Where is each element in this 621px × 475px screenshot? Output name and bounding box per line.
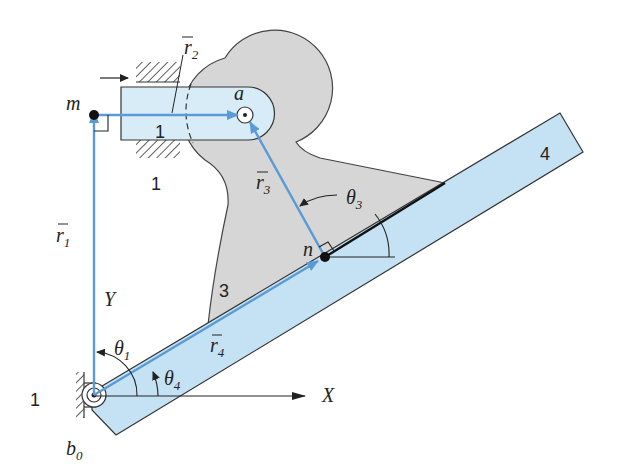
label-link-3: 3	[219, 281, 229, 301]
label-r2: r2	[182, 36, 199, 62]
point-n	[320, 252, 330, 262]
label-b0: b0	[66, 437, 83, 463]
label-m: m	[66, 92, 80, 114]
svg-text:r1: r1	[56, 224, 70, 250]
point-m	[89, 110, 99, 120]
mechanism-diagram: m a n b0 1 1 1 3 4 r1 r2 r3 r4 θ1 θ4 θ3 …	[0, 0, 621, 475]
svg-text:r2: r2	[184, 36, 199, 62]
label-link-1-pivot: 1	[30, 390, 40, 410]
label-y-axis: Y	[104, 288, 117, 310]
label-a: a	[234, 82, 244, 104]
label-theta1: θ1	[114, 337, 130, 363]
label-link-4: 4	[540, 144, 550, 164]
label-n: n	[303, 238, 313, 260]
label-link-2: 1	[155, 122, 165, 142]
label-link-1-guide: 1	[151, 174, 161, 194]
label-r1: r1	[56, 224, 70, 250]
label-x-axis: X	[321, 384, 335, 406]
link-2-slider	[121, 84, 275, 143]
